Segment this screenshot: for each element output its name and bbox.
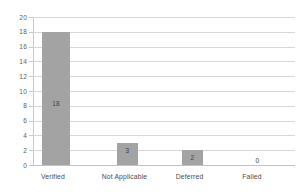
y-tick-label-6: 6 <box>5 117 27 124</box>
gridline-4 <box>33 135 295 136</box>
y-tick-label-14: 14 <box>5 58 27 65</box>
x-axis-label-not-applicable: Not Applicable <box>87 172 162 181</box>
y-tick-label-12: 12 <box>5 73 27 80</box>
bar-value-verified: 18 <box>42 100 70 108</box>
y-tick-label-8: 8 <box>5 102 27 109</box>
y-tick-label-10: 10 <box>5 88 27 95</box>
x-axis-label-verified: Verified <box>23 172 83 181</box>
gridline-18 <box>33 32 295 33</box>
bar-value-deferred: 2 <box>182 154 203 162</box>
bar-chart: 20 18 16 14 12 10 8 6 4 2 0 <box>0 0 302 195</box>
gridline-10 <box>33 91 295 92</box>
gridline-20 <box>33 17 295 18</box>
bar-value-not-applicable: 3 <box>117 147 138 155</box>
y-tick-label-4: 4 <box>5 132 27 139</box>
y-tick-label-20: 20 <box>5 14 27 21</box>
y-tick-label-2: 2 <box>5 147 27 154</box>
plot-area: 18 3 2 0 <box>33 17 295 165</box>
gridline-6 <box>33 121 295 122</box>
gridline-12 <box>33 76 295 77</box>
y-axis-tick-labels: 20 18 16 14 12 10 8 6 4 2 0 <box>0 0 27 195</box>
gridline-0-baseline <box>33 165 295 166</box>
y-tick-label-16: 16 <box>5 43 27 50</box>
bar-verified[interactable] <box>42 32 70 165</box>
gridline-8 <box>33 106 295 107</box>
y-tick-label-0: 0 <box>5 162 27 169</box>
bar-value-failed: 0 <box>247 157 268 165</box>
gridline-2 <box>33 150 295 151</box>
gridline-14 <box>33 61 295 62</box>
y-tick-label-18: 18 <box>5 28 27 35</box>
x-axis-label-deferred: Deferred <box>156 172 223 181</box>
gridline-16 <box>33 47 295 48</box>
x-axis-label-failed: Failed <box>222 172 282 181</box>
